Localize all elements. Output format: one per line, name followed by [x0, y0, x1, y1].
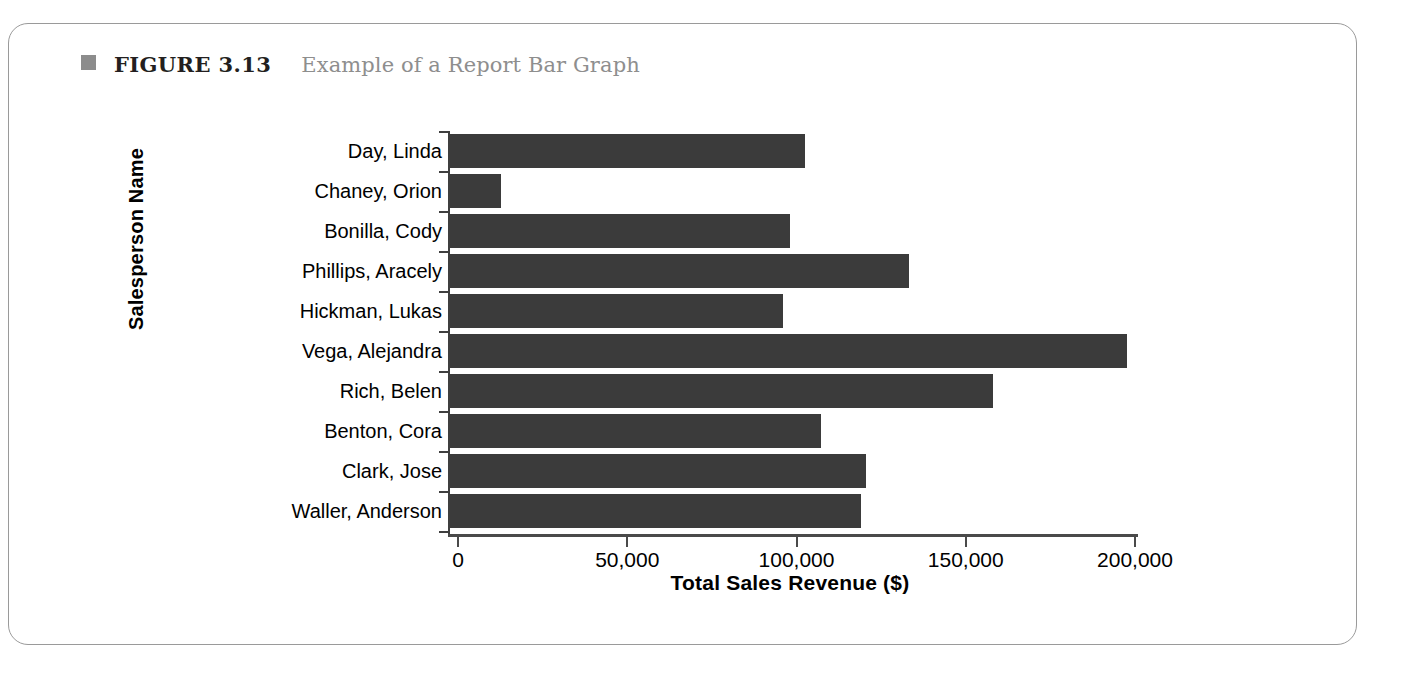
y-axis-tick [439, 451, 448, 453]
bar-row [450, 371, 1140, 411]
bar [450, 214, 790, 248]
y-axis-tick-label: Phillips, Aracely [259, 251, 442, 291]
x-axis-tick [626, 537, 628, 547]
y-axis-tick-label: Vega, Alejandra [259, 331, 442, 371]
y-axis-tick [439, 171, 448, 173]
bar-row [450, 451, 1140, 491]
x-axis-tick-label: 200,000 [1097, 548, 1173, 572]
y-axis-title: Salesperson Name [125, 114, 148, 364]
bar [450, 454, 866, 488]
y-axis-tick [439, 371, 448, 373]
y-axis-tick-label: Waller, Anderson [259, 491, 442, 531]
x-axis-tick [965, 537, 967, 547]
y-axis-tick-label: Benton, Cora [259, 411, 442, 451]
x-axis-tick [457, 537, 459, 547]
x-axis-tick-label: 100,000 [759, 548, 835, 572]
bar-row [450, 411, 1140, 451]
bars-container [450, 131, 1140, 534]
y-axis-tick-label: Chaney, Orion [259, 171, 442, 211]
y-axis-tick-label: Hickman, Lukas [259, 291, 442, 331]
bar [450, 334, 1127, 368]
bar [450, 294, 783, 328]
x-axis-line [448, 534, 1138, 537]
x-axis-tick-label: 150,000 [928, 548, 1004, 572]
x-axis-tick [1134, 537, 1136, 547]
bar-row [450, 251, 1140, 291]
y-axis-tick [439, 131, 448, 133]
x-axis-tick-label: 0 [452, 548, 464, 572]
bar-row [450, 331, 1140, 371]
y-axis-tick-label: Clark, Jose [259, 451, 442, 491]
y-axis-tick [439, 491, 448, 493]
y-axis-tick [439, 211, 448, 213]
bar [450, 414, 821, 448]
y-axis-tick-labels: Day, LindaChaney, OrionBonilla, CodyPhil… [259, 131, 442, 531]
y-axis-tick-label: Rich, Belen [259, 371, 442, 411]
bar-chart: Salesperson Name Day, LindaChaney, Orion… [9, 24, 1358, 646]
bar-row [450, 491, 1140, 531]
bar-row [450, 131, 1140, 171]
y-axis-tick [439, 251, 448, 253]
y-axis-tick [439, 291, 448, 293]
bar [450, 134, 805, 168]
bar [450, 374, 993, 408]
bar [450, 494, 861, 528]
x-axis-tick [796, 537, 798, 547]
y-axis-tick [439, 331, 448, 333]
y-axis-tick [439, 531, 448, 533]
bar-row [450, 211, 1140, 251]
bar-row [450, 171, 1140, 211]
y-axis-tick-label: Bonilla, Cody [259, 211, 442, 251]
figure-card: FIGURE 3.13 Example of a Report Bar Grap… [8, 23, 1357, 645]
bar-row [450, 291, 1140, 331]
y-axis-line [448, 131, 450, 535]
y-axis-tick-label: Day, Linda [259, 131, 442, 171]
bar [450, 174, 501, 208]
x-axis-tick-label: 50,000 [595, 548, 659, 572]
y-axis-tick [439, 411, 448, 413]
x-axis-title: Total Sales Revenue ($) [450, 571, 1130, 595]
bar [450, 254, 909, 288]
